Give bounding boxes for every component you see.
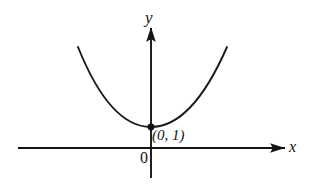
- parabola-curve: [78, 47, 227, 127]
- x-axis-label: x: [289, 139, 296, 155]
- graph-canvas: [0, 0, 316, 194]
- vertex-point-label: (0, 1): [152, 128, 185, 143]
- parabola-figure: y x 0 (0, 1): [0, 0, 316, 194]
- origin-label: 0: [140, 150, 148, 166]
- y-axis-label: y: [145, 9, 153, 26]
